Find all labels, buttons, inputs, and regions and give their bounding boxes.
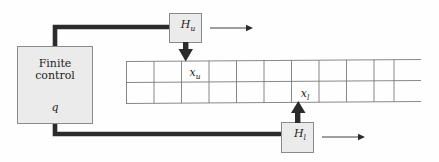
upper-head-label-base: H (181, 18, 191, 31)
tape-line-bottom (126, 102, 421, 104)
tape-upper-cell-label-sub: u (196, 72, 201, 81)
upper-motion-arrow-head (246, 25, 253, 31)
tape-line-top (126, 60, 421, 62)
tape-lower-cell-label-sub: l (307, 93, 309, 102)
down-arrow-shaft (183, 42, 188, 50)
tape-lower-cell-label: xl (292, 88, 318, 103)
up-arrow-shaft (295, 112, 300, 123)
lower-head-motion-arrow-icon (322, 134, 365, 140)
tape-upper-cell-label: xu (182, 67, 208, 82)
lower-motion-arrow-head (358, 134, 365, 140)
finite-control-label: Finite control (19, 58, 91, 83)
upper-head-motion-arrow-icon (210, 25, 253, 31)
turing-machine-diagram: Finite control q Hu Hl xu xl (0, 0, 439, 162)
upper-head-label: Hu (177, 19, 199, 34)
lower-head-label-base: H (294, 127, 304, 140)
finite-control-label-line2: control (19, 70, 91, 82)
finite-control-label-line1: Finite (39, 57, 72, 70)
lower-head-label: Hl (289, 128, 311, 143)
down-arrow-icon (179, 42, 194, 62)
upper-head-label-sub: u (190, 24, 195, 33)
finite-control-state-label: q (19, 102, 91, 114)
down-arrow-head (179, 49, 194, 62)
tape-line-middle (126, 81, 421, 83)
lower-head-label-sub: l (304, 133, 306, 142)
tape-grid (126, 60, 421, 104)
up-arrow-icon (291, 101, 306, 123)
